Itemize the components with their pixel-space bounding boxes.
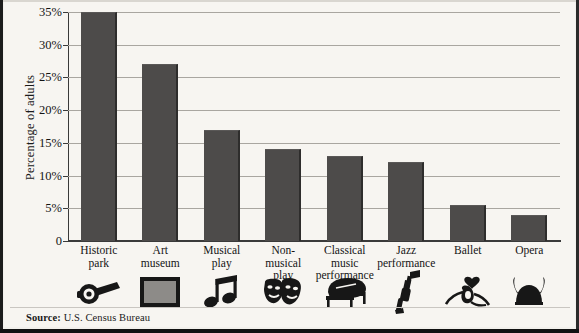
y-axis-line xyxy=(68,12,69,241)
y-tick-label: 20% xyxy=(10,103,62,118)
source-label: Source: xyxy=(26,312,61,323)
source-note: Source: U.S. Census Bureau xyxy=(26,312,150,323)
y-tick-label: 15% xyxy=(10,135,62,150)
category-label-line: musical xyxy=(253,257,315,270)
bar xyxy=(450,205,486,241)
bar xyxy=(204,130,240,241)
category-label-line: Historic xyxy=(68,244,130,257)
category-label-line: park xyxy=(68,257,130,270)
category-label-line: play xyxy=(191,257,253,270)
x-axis-category-label: Jazzperformance xyxy=(376,244,438,269)
category-label-line: Classical xyxy=(314,244,376,257)
category-label-line: Opera xyxy=(499,244,561,257)
category-label-line: Non- xyxy=(253,244,315,257)
source-value: U.S. Census Bureau xyxy=(64,312,150,323)
bar xyxy=(265,149,301,241)
gridline xyxy=(68,12,560,13)
chart-figure: Percentage of adults 05%10%15%20%25%30%3… xyxy=(0,0,579,333)
category-label-line: music xyxy=(314,257,376,270)
bar xyxy=(327,156,363,241)
y-tick-label: 25% xyxy=(10,70,62,85)
x-axis-category-label: Ballet xyxy=(437,244,499,257)
category-label-line: museum xyxy=(130,257,192,270)
x-axis-category-label: Opera xyxy=(499,244,561,257)
y-tick-label: 30% xyxy=(10,37,62,52)
category-label-line: Jazz xyxy=(376,244,438,257)
bar xyxy=(142,64,178,241)
category-label-line: performance xyxy=(376,257,438,270)
bar xyxy=(511,215,547,241)
x-axis-category-label: Musicalplay xyxy=(191,244,253,269)
y-tick-label: 5% xyxy=(10,201,62,216)
category-label-line: Art xyxy=(130,244,192,257)
figure-bottom-edge xyxy=(0,329,579,333)
y-tick-label: 35% xyxy=(10,5,62,20)
bar xyxy=(388,162,424,241)
y-axis-title: Percentage of adults xyxy=(23,38,38,218)
y-tick-label: 0 xyxy=(10,234,62,249)
footer-divider xyxy=(10,307,570,308)
category-label-line: Musical xyxy=(191,244,253,257)
y-tick-label: 10% xyxy=(10,168,62,183)
bar xyxy=(81,12,117,241)
x-axis-category-label: Historicpark xyxy=(68,244,130,269)
figure-left-edge xyxy=(0,0,3,333)
y-tick-mark xyxy=(63,241,68,242)
x-axis-category-label: Artmuseum xyxy=(130,244,192,269)
plot-area: 05%10%15%20%25%30%35% xyxy=(68,12,560,241)
gridline xyxy=(68,45,560,46)
category-label-line: Ballet xyxy=(437,244,499,257)
chart-panel: Percentage of adults 05%10%15%20%25%30%3… xyxy=(4,2,575,327)
